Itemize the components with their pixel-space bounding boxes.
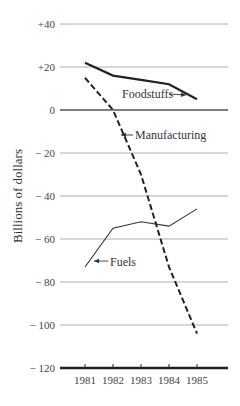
y-tick-label: +20 <box>38 61 56 73</box>
x-tick-label: 1982 <box>102 374 124 386</box>
x-tick-label: 1981 <box>74 374 96 386</box>
y-tick-label: +40 <box>38 18 56 30</box>
arrow-head-icon <box>94 259 99 263</box>
x-tick-label: 1983 <box>130 374 153 386</box>
series-label-fuels: Fuels <box>110 255 136 269</box>
x-tick-label: 1984 <box>158 374 181 386</box>
series-fuels-line <box>85 209 197 267</box>
y-tick-label: − 120 <box>30 362 56 374</box>
y-tick-label: − 100 <box>30 319 56 331</box>
y-tick-label: − 20 <box>35 147 55 159</box>
y-tick-label: − 80 <box>35 276 55 288</box>
series-manufacturing-line <box>85 78 197 334</box>
series-label-manufacturing: Manufacturing <box>135 128 206 142</box>
series-label-foodstuffs: Foodstuffs <box>122 87 173 101</box>
y-tick-label: 0 <box>50 104 56 116</box>
y-axis-title: Billions of dollars <box>10 149 25 243</box>
line-chart: +40+200− 20− 40− 60− 80− 100− 1201981198… <box>0 0 240 406</box>
x-tick-label: 1985 <box>186 374 209 386</box>
y-tick-label: − 60 <box>35 233 55 245</box>
y-tick-label: − 40 <box>35 190 55 202</box>
